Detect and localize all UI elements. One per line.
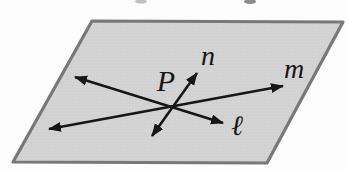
geometry-figure: m ℓ n P	[0, 0, 348, 172]
point-label: P	[156, 64, 175, 97]
label-line-l: ℓ	[231, 110, 243, 141]
label-line-m: m	[284, 53, 304, 84]
figure-canvas: m ℓ n P	[0, 0, 348, 172]
label-line-n: n	[201, 40, 215, 71]
scan-artifact	[135, 0, 147, 4]
plane	[13, 21, 343, 163]
scan-artifact	[244, 0, 256, 4]
